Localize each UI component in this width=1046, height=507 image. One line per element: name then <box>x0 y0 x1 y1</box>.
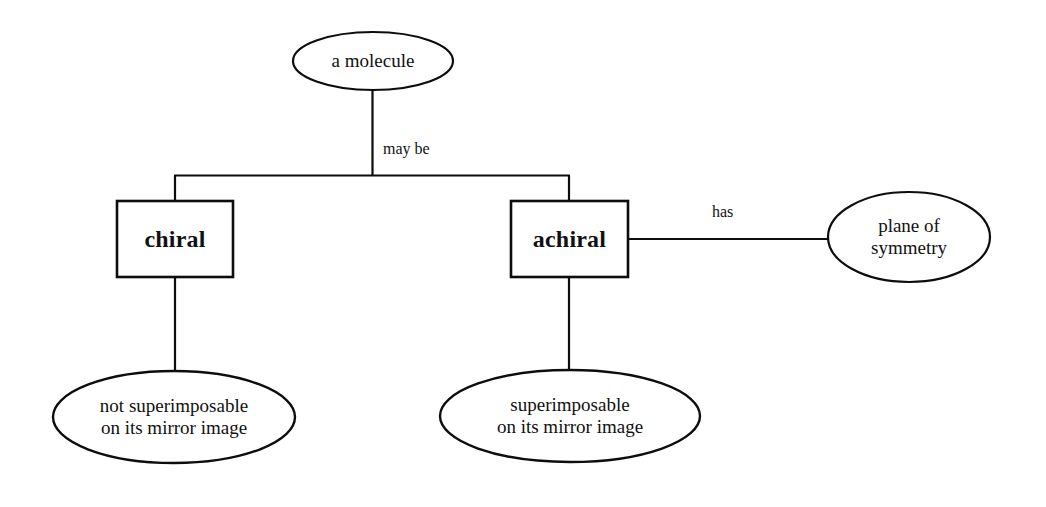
diagram-canvas: a molecule chiral achiral plane of symme… <box>0 0 1046 507</box>
edge-label-has: has <box>712 203 733 221</box>
node-shape-superimposable[interactable] <box>440 370 700 462</box>
node-shape-not-superimposable[interactable] <box>53 371 295 463</box>
diagram-graphics <box>0 0 1046 507</box>
node-shape-a-molecule[interactable] <box>293 32 453 90</box>
edge-label-may-be: may be <box>383 140 430 158</box>
node-shape-chiral[interactable] <box>117 201 233 277</box>
node-shape-plane-of-symmetry[interactable] <box>828 192 990 282</box>
node-shape-achiral[interactable] <box>511 201 628 277</box>
